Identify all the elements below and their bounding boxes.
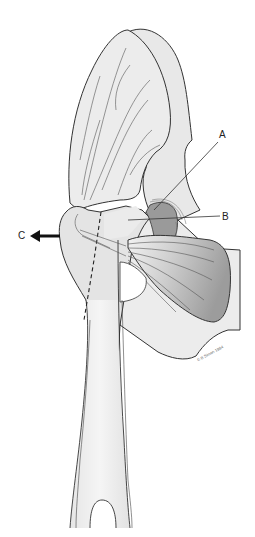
femoral-shaft xyxy=(70,300,130,528)
hip-illustration xyxy=(0,0,255,537)
arrow-left-icon xyxy=(30,230,60,242)
anatomical-figure: A B C © B Simon 1984 xyxy=(0,0,255,537)
label-a: A xyxy=(219,130,226,140)
label-b: B xyxy=(222,212,229,222)
label-c: C xyxy=(18,231,25,241)
